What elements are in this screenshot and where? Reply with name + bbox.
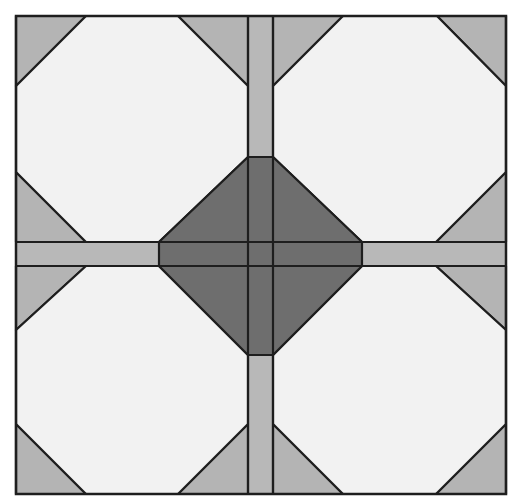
- quilt-block-diagram: [0, 0, 515, 504]
- center-square: [248, 242, 273, 266]
- center-cross-square: [248, 242, 273, 266]
